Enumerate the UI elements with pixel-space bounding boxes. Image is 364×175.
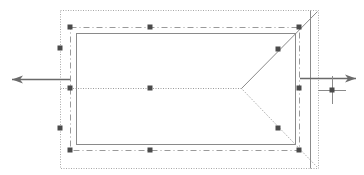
resize-handle[interactable] — [148, 148, 153, 153]
resize-handle[interactable] — [297, 25, 302, 30]
resize-handle[interactable] — [68, 148, 73, 153]
left-arrow[interactable] — [12, 76, 70, 84]
dash-dot-selection-frame — [71, 28, 300, 151]
resize-handle[interactable] — [148, 25, 153, 30]
resize-handle[interactable] — [276, 47, 281, 52]
resize-handle[interactable] — [68, 25, 73, 30]
right-arrow[interactable] — [300, 75, 356, 83]
resize-handle[interactable] — [68, 86, 73, 91]
diagram-canvas — [0, 0, 364, 175]
resize-handle[interactable] — [148, 86, 153, 91]
resize-handle[interactable] — [276, 126, 281, 131]
resize-handle[interactable] — [58, 126, 63, 131]
resize-handle[interactable] — [58, 46, 63, 51]
resize-handle[interactable] — [330, 88, 335, 93]
resize-handle[interactable] — [297, 148, 302, 153]
resize-handle[interactable] — [297, 86, 302, 91]
